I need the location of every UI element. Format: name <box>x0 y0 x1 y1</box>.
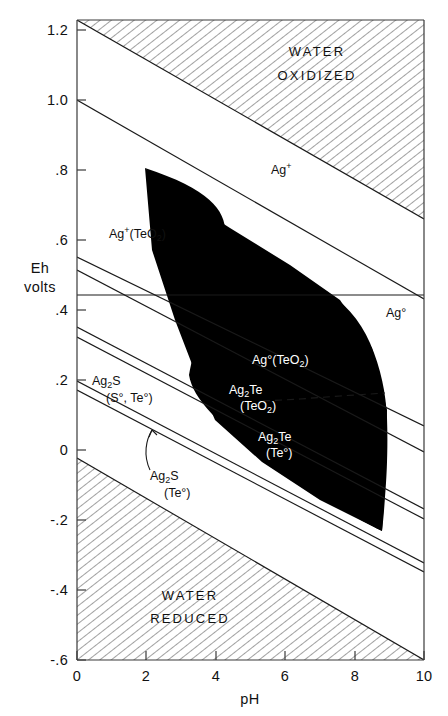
y-tick-label-1-2: 1.2 <box>47 22 68 38</box>
figure-top-caption <box>0 0 448 7</box>
ag-plus-teo2-paren: (TeO <box>130 227 157 241</box>
y-tick-label-m0-6: -.6 <box>50 652 68 668</box>
ag-plus-teo2-base: Ag <box>109 227 124 241</box>
water-oxidized-label-line1: WATER <box>289 44 346 59</box>
x-tick-label-10: 10 <box>416 668 433 684</box>
y-tick-label-m0-4: -.4 <box>50 582 68 598</box>
water-oxidized-label-line2: OXIDIZED <box>278 68 357 83</box>
x-tick-label-6: 6 <box>281 668 289 684</box>
species-label-ag2s-ste: Ag2S (S°, Te°) <box>92 374 153 405</box>
ag-zero-teo2-close: ) <box>304 353 308 367</box>
ag2s-ste-line2: (S°, Te°) <box>106 391 153 405</box>
ag2s-ste-line1-rest: S <box>112 374 120 388</box>
svg-text:Ag2S: Ag2S <box>92 374 121 390</box>
y-tick-label-0-6: .6 <box>55 232 68 248</box>
ag-plus-base: Ag <box>271 163 286 177</box>
ag2te-teo2-line2: (TeO <box>240 399 267 413</box>
ag2s-te-line2: (Te°) <box>164 486 191 500</box>
ag-zero-teo2-base: Ag°(TeO <box>252 353 300 367</box>
diagram-canvas: 1.2 1.0 .8 .6 .4 .2 0 -.2 -.4 -.6 0 2 4 … <box>0 0 448 716</box>
ag2te-teo2-line1-base: Ag <box>229 383 244 397</box>
ag2te-te-line1-rest: Te <box>278 430 291 444</box>
y-tick-label-1-0: 1.0 <box>47 92 68 108</box>
x-tick-label-8: 8 <box>351 668 359 684</box>
ag-plus-superscript: + <box>286 161 291 171</box>
y-tick-label-m0-2: -.2 <box>50 512 68 528</box>
eh-ph-diagram-figure: 1.2 1.0 .8 .6 .4 .2 0 -.2 -.4 -.6 0 2 4 … <box>0 0 448 716</box>
species-label-ag2s-te: Ag2S (Te°) <box>150 469 191 500</box>
species-label-ag-plus: Ag+ <box>271 161 292 177</box>
ag2te-teo2-line1-rest: Te <box>249 383 262 397</box>
ag2s-ste-line1-base: Ag <box>92 374 107 388</box>
svg-text:Ag2S: Ag2S <box>150 469 179 485</box>
ag2te-te-line1-base: Ag <box>258 430 273 444</box>
y-axis-title-line2: volts <box>24 279 56 295</box>
svg-text:Ag+: Ag+ <box>271 161 292 177</box>
ag-plus-teo2-close: ) <box>162 227 166 241</box>
x-tick-label-0: 0 <box>73 668 81 684</box>
y-tick-label-0-4: .4 <box>55 302 68 318</box>
water-reduced-label-line2: REDUCED <box>150 611 230 626</box>
x-tick-label-4: 4 <box>212 668 220 684</box>
species-label-ag-zero: Ag° <box>386 306 406 320</box>
ag2s-te-line1-rest: S <box>170 469 178 483</box>
y-tick-label-0: 0 <box>60 442 68 458</box>
ag2te-teo2-line2-close: ) <box>272 399 276 413</box>
y-axis-tick-labels: 1.2 1.0 .8 .6 .4 .2 0 -.2 -.4 -.6 <box>47 22 68 668</box>
y-tick-label-0-8: .8 <box>55 162 68 178</box>
y-tick-label-0-2: .2 <box>55 372 68 388</box>
x-axis-tick-labels: 0 2 4 6 8 10 <box>73 668 433 684</box>
ag2te-te-line2: (Te°) <box>266 446 293 460</box>
water-reduced-label-line1: WATER <box>162 588 219 603</box>
x-tick-label-2: 2 <box>142 668 150 684</box>
x-axis-title: pH <box>240 691 259 707</box>
ag2s-te-leader-arrow <box>146 430 157 470</box>
y-axis-title-line1: Eh <box>31 260 50 276</box>
ag2s-te-line1-base: Ag <box>150 469 165 483</box>
